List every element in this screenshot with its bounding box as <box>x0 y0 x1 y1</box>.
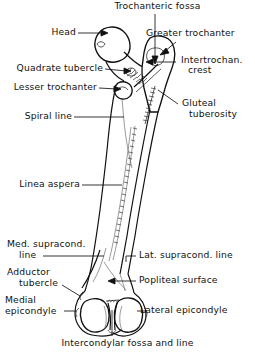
lateral-condyle-outline <box>114 298 142 332</box>
lateral-supracondylar-line <box>128 274 134 293</box>
femoral-head-outline <box>95 27 130 62</box>
label-gluteal-tuberosity-line2: tuberosity <box>189 109 255 120</box>
label-medial-epicondyle-line1: Medial <box>5 295 65 306</box>
label-med-supracond-line-line1: Med. supracond. <box>7 239 119 250</box>
arrowhead-popliteal-surface <box>108 278 115 284</box>
medial-condyle-outline <box>80 299 109 332</box>
label-intercondylar-fossa-and-line: Intercondylar fossa and line <box>25 338 230 349</box>
intercondylar-line-main <box>106 300 119 301</box>
femur-diagram: Trochanteric fossa Head Greater trochant… <box>0 0 255 353</box>
femoral-neck-lower <box>106 62 124 81</box>
label-quadrate-tubercle: Quadrate tubercle <box>2 63 103 74</box>
label-spiral-line: Spiral line <box>2 111 72 122</box>
label-med-supracond-line-line2: line <box>19 250 79 261</box>
label-adductor-tubercle-line1: Adductor <box>7 267 83 278</box>
label-medial-epicondyle-line2: epicondyle <box>5 306 67 317</box>
label-head: Head <box>8 27 76 38</box>
label-adductor-tubercle-line2: tubercle <box>19 278 83 289</box>
label-lateral-epicondyle: Lateral epicondyle <box>140 305 254 316</box>
label-linea-aspera: Linea aspera <box>2 179 80 190</box>
label-gluteal-tuberosity-line1: Gluteal <box>182 98 252 109</box>
shaft-medial-border <box>85 90 115 291</box>
medial-epicondyle-bump <box>76 308 79 317</box>
label-greater-trochanter: Greater trochanter <box>146 28 254 39</box>
label-popliteal-surface: Popliteal surface <box>139 275 249 286</box>
popliteal-surface-area <box>104 262 126 290</box>
label-intertrochanteric-crest-line2: crest <box>188 65 248 76</box>
label-lat-supracond-line: Lat. supracond. line <box>139 250 255 261</box>
label-lesser-trochanter: Lesser trochanter <box>2 82 97 93</box>
label-trochanteric-fossa: Trochanteric fossa <box>95 1 220 12</box>
femoral-neck-outline <box>124 52 143 67</box>
